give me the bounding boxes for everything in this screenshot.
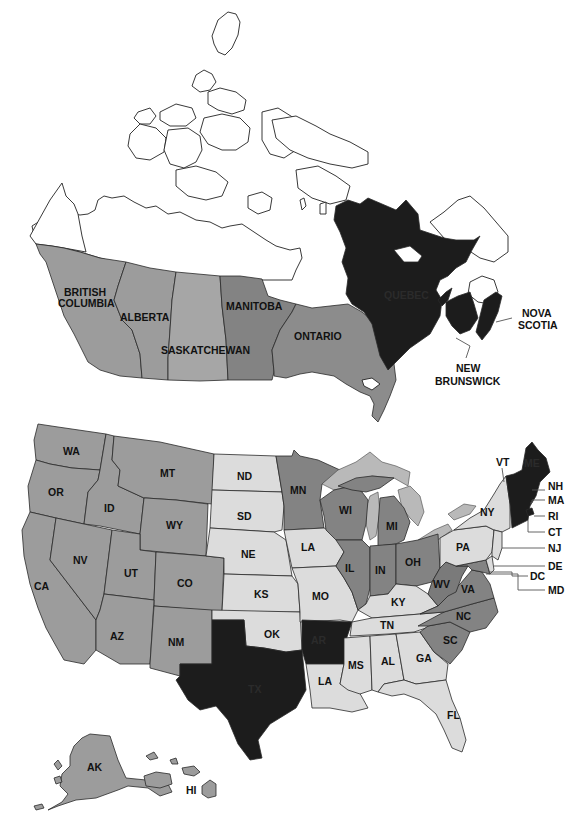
island-ak-2 [54, 776, 62, 784]
label-new-brunswick-2: BRUNSWICK [435, 375, 501, 387]
label-WY: WY [166, 519, 183, 531]
label-OK: OK [264, 628, 280, 640]
map-canvas: BRITISH COLUMBIA ALBERTA SASKATCHEWAN MA… [0, 0, 577, 815]
label-UT: UT [124, 567, 139, 579]
label-TN: TN [380, 619, 394, 631]
label-AK: AK [87, 761, 103, 773]
label-NJ: NJ [548, 542, 562, 554]
leader-ct [528, 520, 545, 532]
label-NY: NY [480, 506, 495, 518]
label-KY: KY [391, 596, 406, 608]
label-KS: KS [254, 588, 269, 600]
label-IN: IN [375, 564, 386, 576]
label-NH: NH [548, 480, 563, 492]
label-ID: ID [104, 502, 115, 514]
label-AR: AR [311, 634, 327, 646]
arctic-archipelago [128, 12, 368, 214]
label-LA: LA [318, 675, 332, 687]
label-manitoba: MANITOBA [226, 300, 283, 312]
label-MT: MT [160, 467, 176, 479]
label-PA: PA [456, 541, 470, 553]
label-alberta: ALBERTA [120, 311, 170, 323]
label-DE: DE [548, 560, 563, 572]
label-NC: NC [456, 610, 472, 622]
label-IA: LA [301, 541, 315, 553]
label-WI: WI [339, 504, 352, 516]
label-VT: VT [496, 456, 510, 468]
usa: WA OR CA ID NV MT WY UT CO AZ NM ND SD N… [22, 424, 565, 810]
state-AZ[interactable] [96, 594, 154, 664]
state-HI[interactable] [202, 780, 216, 798]
label-CT: CT [548, 526, 563, 538]
label-GA: GA [416, 652, 432, 664]
label-RI: RI [548, 510, 559, 522]
label-WV: WV [433, 578, 450, 590]
state-AK[interactable] [48, 734, 172, 810]
leader-new-brunswick [456, 338, 470, 358]
hi-island-3 [170, 758, 178, 764]
label-saskatchewan: SASKATCHEWAN [161, 344, 250, 356]
label-ME: ME [524, 457, 540, 469]
label-WA: WA [63, 445, 80, 457]
label-nova-scotia-1: NOVA [522, 307, 552, 319]
label-MA: MA [548, 494, 565, 506]
label-MI: MI [386, 520, 398, 532]
label-nova-scotia-2: SCOTIA [518, 319, 558, 331]
state-NY[interactable] [454, 476, 510, 532]
label-quebec: QUEBEC [384, 289, 429, 301]
leader-nova-scotia [496, 318, 512, 322]
label-ND: ND [237, 470, 253, 482]
label-CO: CO [177, 577, 193, 589]
label-AZ: AZ [110, 630, 125, 642]
label-CA: CA [34, 580, 50, 592]
label-AL: AL [381, 655, 396, 667]
label-HI: HI [186, 784, 197, 796]
canada: BRITISH COLUMBIA ALBERTA SASKATCHEWAN MA… [30, 12, 558, 422]
label-MS: MS [348, 659, 364, 671]
label-ontario: ONTARIO [294, 330, 342, 342]
label-NM: NM [168, 636, 185, 648]
label-OH: OH [405, 556, 421, 568]
label-SD: SD [237, 510, 252, 522]
label-SC: SC [443, 634, 458, 646]
leader-ma2 [530, 500, 545, 503]
state-RI[interactable] [526, 508, 534, 516]
label-DC: DC [530, 570, 546, 582]
label-IL: IL [345, 562, 355, 574]
label-british-columbia-2: COLUMBIA [58, 297, 115, 309]
label-NE: NE [241, 548, 256, 560]
hi-island-4 [146, 752, 158, 760]
label-OR: OR [48, 486, 64, 498]
yukon-outline [30, 183, 86, 252]
island-ak-1 [54, 760, 62, 770]
label-VA: VA [461, 583, 475, 595]
hi-island-2 [182, 766, 200, 776]
label-TX: TX [248, 683, 261, 695]
province-saskatchewan[interactable] [168, 272, 228, 381]
label-FL: FL [447, 709, 460, 721]
label-MO: MO [312, 590, 329, 602]
island-ak-4 [144, 772, 172, 788]
island-ak-3 [34, 804, 44, 810]
label-MN: MN [290, 484, 306, 496]
label-new-brunswick-1: NEW [456, 362, 481, 374]
label-NV: NV [73, 554, 88, 566]
state-NJ[interactable] [492, 530, 502, 560]
label-MD: MD [548, 584, 565, 596]
